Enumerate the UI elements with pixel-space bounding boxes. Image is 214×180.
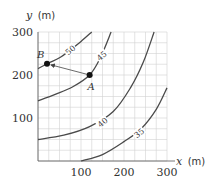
contour-labels: 50454035 <box>62 42 146 140</box>
y-axis-var: y <box>25 9 33 22</box>
point-b-marker <box>44 61 50 67</box>
y-axis-unit: (m) <box>38 10 56 21</box>
arrow-a-to-b <box>51 65 93 76</box>
x-tick-200: 200 <box>114 166 135 179</box>
y-tick-100: 100 <box>12 112 33 125</box>
x-tick-100: 100 <box>71 166 92 179</box>
point-b-label: B <box>36 49 44 60</box>
contour-label-45: 45 <box>95 49 109 62</box>
y-axis-label: y (m) <box>25 9 55 22</box>
x-axis-unit: (m) <box>188 156 206 167</box>
x-axis-label: x (m) <box>176 155 205 168</box>
y-tick-200: 200 <box>12 69 33 82</box>
point-a-marker <box>87 72 93 78</box>
point-a-label: A <box>87 81 95 92</box>
y-tick-300: 300 <box>12 26 33 39</box>
x-axis-var: x <box>176 155 183 168</box>
x-tick-300: 300 <box>157 166 178 179</box>
contour-plot: 50454035 B A 300 200 100 100 200 300 y (… <box>0 0 214 180</box>
